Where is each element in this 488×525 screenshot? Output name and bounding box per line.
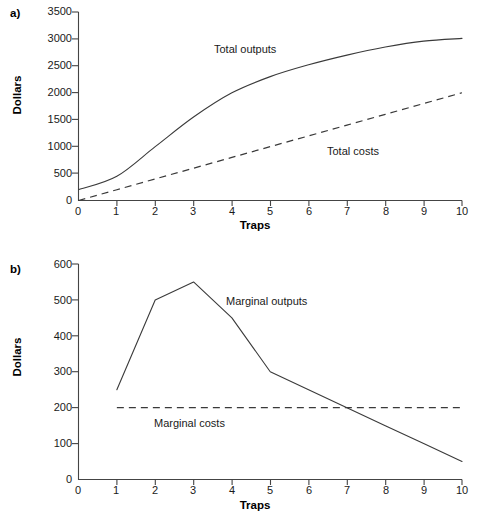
panel-b-curve-marginal-outputs [117,282,462,462]
figure-two-panel-chart: a) Dollars Traps 0 500 1000 1500 2000 25… [0,0,488,525]
panel-a-curve-total-outputs [79,38,463,189]
panel-a: a) Dollars Traps 0 500 1000 1500 2000 25… [0,0,488,245]
panel-a-x-tick-marks [117,201,462,207]
panel-a-curve-total-costs [79,93,463,201]
panel-b: b) Dollars Traps 0 100 200 300 400 500 6… [0,245,488,525]
panel-a-axis-lines [79,12,463,201]
panel-a-plot [0,0,488,245]
panel-b-x-tick-marks [117,480,462,486]
panel-b-plot [0,245,488,525]
panel-b-y-tick-marks [72,264,79,444]
panel-a-y-tick-marks [72,12,79,173]
